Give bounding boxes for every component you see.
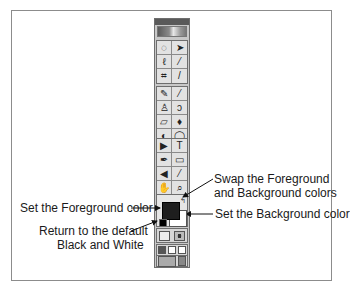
swap-annotation-line1: Swap the Foreground — [214, 172, 329, 186]
default-annotation-line2: Black and White — [57, 238, 144, 252]
background-annotation: Set the Background color — [215, 207, 350, 221]
foreground-annotation: Set the Foreground color — [20, 201, 153, 215]
default-colors-icon[interactable] — [159, 219, 167, 227]
foreground-color-swatch[interactable] — [162, 202, 180, 220]
swap-annotation-line2: and Background colors — [214, 186, 337, 200]
default-annotation-line1: Return to the default — [39, 224, 148, 238]
